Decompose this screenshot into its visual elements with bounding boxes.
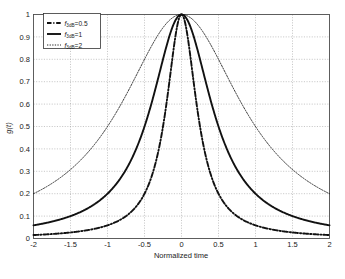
y-axis-title: g(t) [4,122,13,134]
x-tick-labels: -2-1.5-1-0.500.511.52 [30,240,331,249]
x-tick-label: 0 [179,240,183,249]
line-chart: -2-1.5-1-0.500.511.52 00.10.20.30.40.50.… [0,0,345,279]
y-tick-label: 0.6 [20,100,30,109]
x-tick-label: 1.5 [287,240,297,249]
x-tick-label: -1.5 [64,240,77,249]
y-tick-label: 0.3 [20,167,30,176]
x-tick-label: 2 [327,240,331,249]
y-tick-label: 0.9 [20,33,30,42]
x-tick-label: -0.5 [138,240,151,249]
x-axis-title: Normalized time [154,251,208,260]
figure-canvas: -2-1.5-1-0.500.511.52 00.10.20.30.40.50.… [0,0,345,279]
x-tick-label: 0.5 [213,240,223,249]
y-tick-label: 0.4 [20,145,30,154]
x-tick-label: -1 [104,240,111,249]
y-tick-label: 0.8 [20,55,30,64]
y-tick-label: 0.1 [20,212,30,221]
legend[interactable]: f3dB=0.5f3dB=1f3dB=2 [44,14,101,51]
legend-box [44,14,101,49]
y-tick-label: 0.5 [20,122,30,131]
y-tick-label: 1 [26,10,30,19]
x-tick-label: 1 [253,240,257,249]
y-tick-label: 0 [26,234,30,243]
y-tick-label: 0.7 [20,77,30,86]
x-tick-label: -2 [30,240,37,249]
y-tick-label: 0.2 [20,189,30,198]
